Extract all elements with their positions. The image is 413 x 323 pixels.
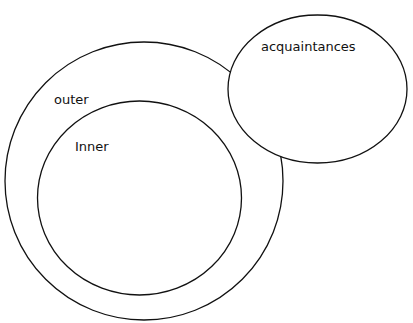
- venn-diagram: outer Inner acquaintances: [0, 0, 413, 323]
- acquaintances-label: acquaintances: [261, 39, 356, 54]
- outer-label: outer: [54, 92, 89, 107]
- acquaintances-circle: [228, 15, 407, 163]
- inner-label: Inner: [75, 139, 109, 154]
- inner-circle: [38, 101, 242, 295]
